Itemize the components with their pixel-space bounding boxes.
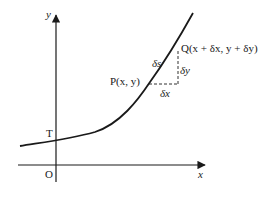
ds-label: δs: [152, 57, 161, 69]
curve-diagram: y x O T P(x, y) Q(x + δx, y + δy) δs δy …: [0, 0, 271, 200]
x-axis-label: x: [197, 168, 203, 180]
dx-label: δx: [160, 87, 170, 99]
origin-label: O: [45, 168, 53, 180]
point-p-label: P(x, y): [110, 75, 140, 88]
point-t-label: T: [46, 127, 53, 139]
y-axis-label: y: [45, 8, 51, 20]
point-q-label: Q(x + δx, y + δy): [181, 42, 258, 55]
dy-label: δy: [180, 64, 190, 76]
